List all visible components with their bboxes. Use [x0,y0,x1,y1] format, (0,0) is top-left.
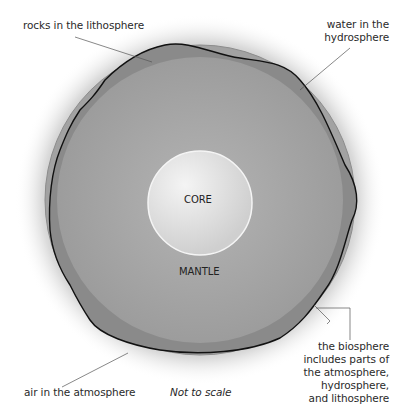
label-not-to-scale: Not to scale [170,386,231,399]
label-air-atmosphere: air in the atmosphere [24,386,135,399]
label-core: CORE [184,193,212,206]
label-rocks-lithosphere: rocks in the lithosphere [23,19,144,32]
air-leader-line [62,353,128,387]
label-mantle: MANTLE [179,265,219,278]
label-biosphere: the biosphere includes parts of the atmo… [269,340,389,405]
label-water-hydrosphere: water in the hydrosphere [324,18,389,44]
